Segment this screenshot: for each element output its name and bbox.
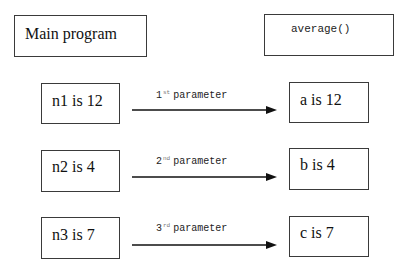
arrowhead-icon [266,106,277,114]
arrows-layer [0,0,408,272]
arrow-row-1 [132,106,277,114]
arrowhead-icon [266,173,277,181]
arrow-row-3 [132,241,277,249]
arrowhead-icon [266,241,277,249]
arrow-row-2 [132,173,277,181]
